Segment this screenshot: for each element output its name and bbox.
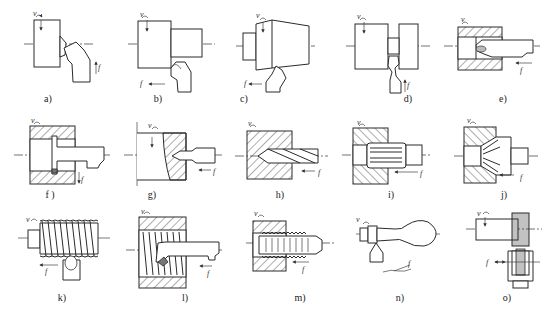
svg-text:v: v <box>31 116 35 125</box>
lathe-operations-diagram: v f v f v f v <box>0 0 552 318</box>
panel-label-m: m) <box>294 292 305 303</box>
diagram-drawing: v f v f v f v <box>0 0 552 318</box>
panel-j-countersinking: v f <box>454 116 540 183</box>
svg-text:f: f <box>302 265 306 274</box>
svg-text:v: v <box>33 9 37 18</box>
panel-label-l: l) <box>182 292 188 303</box>
svg-text:f: f <box>81 175 85 184</box>
panel-label-o: o) <box>503 292 511 303</box>
svg-text:f: f <box>486 258 490 267</box>
svg-text:v: v <box>140 10 144 19</box>
svg-text:v: v <box>461 15 465 24</box>
panel-i-reaming: v f <box>342 118 430 184</box>
svg-text:v: v <box>357 118 361 127</box>
panel-b-cylindrical-turning: v f <box>128 10 215 92</box>
svg-text:f: f <box>45 267 49 276</box>
panel-a-facing: v f <box>24 9 102 82</box>
svg-text:f: f <box>407 81 411 90</box>
svg-text:v: v <box>477 209 481 218</box>
svg-text:f: f <box>244 79 248 88</box>
svg-text:f: f <box>207 269 211 278</box>
svg-text:v: v <box>467 116 471 125</box>
panel-label-k: k) <box>58 292 66 303</box>
svg-text:f: f <box>213 167 217 176</box>
svg-text:f: f <box>318 168 322 177</box>
svg-text:v: v <box>254 209 258 218</box>
panel-label-n: n) <box>396 292 404 303</box>
panel-label-h: h) <box>276 189 284 200</box>
panel-label-i: i) <box>388 189 394 200</box>
svg-text:f: f <box>520 173 524 182</box>
panel-label-a: a) <box>44 93 52 104</box>
svg-text:f: f <box>520 66 524 75</box>
panel-n-form-turning: v f <box>356 215 440 272</box>
svg-text:v: v <box>141 207 145 216</box>
svg-text:v: v <box>248 119 252 128</box>
panel-label-j: j) <box>501 189 507 200</box>
svg-text:f: f <box>408 259 412 268</box>
svg-text:f: f <box>420 169 424 178</box>
panel-e-boring: v f <box>444 15 540 75</box>
panel-m-tapping: v f <box>246 209 334 274</box>
svg-text:v: v <box>357 12 361 21</box>
panel-label-g: g) <box>148 189 156 200</box>
svg-text:v: v <box>256 11 260 20</box>
panel-label-f: f ) <box>45 189 54 200</box>
panel-c-taper-turning: v f <box>236 11 315 92</box>
panel-l-internal-threading: v f <box>126 207 222 288</box>
panel-d-grooving: v f <box>346 12 432 93</box>
panel-label-b: b) <box>154 93 162 104</box>
panel-h-drilling: v f <box>235 119 328 179</box>
svg-text:f: f <box>98 63 102 72</box>
panel-f-internal-grooving: v f <box>14 116 110 184</box>
panel-label-c: c) <box>240 93 248 104</box>
panel-label-e: e) <box>499 93 507 104</box>
panel-g-center-drilling: v f <box>124 121 222 186</box>
svg-text:v: v <box>356 215 360 224</box>
panel-o-knurling: v f <box>466 209 542 288</box>
svg-text:f: f <box>140 79 144 88</box>
panel-k-external-threading: v f <box>18 215 110 280</box>
svg-text:v: v <box>26 215 30 224</box>
panel-label-d: d) <box>404 93 412 104</box>
svg-text:v: v <box>148 121 152 130</box>
